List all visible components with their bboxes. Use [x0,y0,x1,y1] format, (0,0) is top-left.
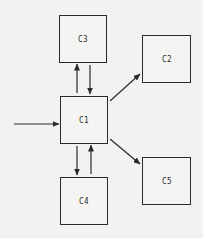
node-c3: C3 [59,15,107,63]
node-c1: C1 [60,96,108,144]
arrow-c1-to-c2 [110,74,140,101]
node-c4: C4 [60,177,108,225]
diagram-canvas: C3 C1 C4 C2 C5 [0,0,203,238]
node-c3-label: C3 [78,34,88,44]
node-c5-label: C5 [161,176,171,186]
node-c1-label: C1 [79,115,89,125]
node-c5: C5 [142,157,191,205]
node-c4-label: C4 [79,196,89,206]
node-c2: C2 [142,35,191,83]
node-c2-label: C2 [161,54,171,64]
arrow-c1-to-c5 [110,139,140,164]
